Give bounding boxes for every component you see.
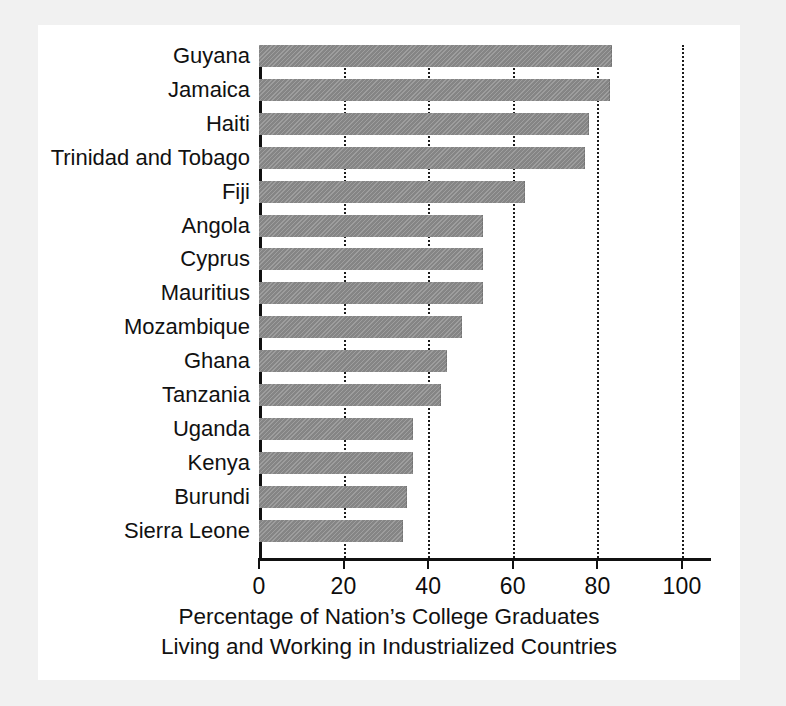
bar-row: Uganda — [259, 418, 682, 452]
bar-sierra-leone — [259, 520, 403, 542]
gridline-100 — [682, 45, 684, 558]
bar-row: Fiji — [259, 181, 682, 215]
bar-angola — [259, 215, 483, 237]
x-tick-label-20: 20 — [331, 573, 357, 600]
bar-burundi — [259, 486, 407, 508]
bar-ghana — [259, 350, 447, 372]
bar-uganda — [259, 418, 413, 440]
plot-area: 020406080100 GuyanaJamaicaHaitiTrinidad … — [259, 45, 682, 565]
bar-tanzania — [259, 384, 441, 406]
category-label-jamaica: Jamaica — [168, 79, 250, 101]
category-label-haiti: Haiti — [206, 113, 250, 135]
category-label-burundi: Burundi — [174, 486, 250, 508]
chart-card: 020406080100 GuyanaJamaicaHaitiTrinidad … — [38, 25, 740, 680]
bar-mauritius — [259, 282, 483, 304]
bar-row: Kenya — [259, 452, 682, 486]
x-tick-80 — [596, 558, 598, 569]
bar-row: Cyprus — [259, 248, 682, 282]
x-axis-title-line-1: Percentage of Nation’s College Graduates — [38, 602, 740, 632]
bar-jamaica — [259, 79, 610, 101]
bar-mozambique — [259, 316, 462, 338]
bar-trinidad-and-tobago — [259, 147, 585, 169]
x-tick-label-100: 100 — [663, 573, 702, 600]
x-axis-title-line-2: Living and Working in Industrialized Cou… — [38, 632, 740, 662]
x-tick-40 — [427, 558, 429, 569]
bar-row: Trinidad and Tobago — [259, 147, 682, 181]
bar-row: Jamaica — [259, 79, 682, 113]
bar-fiji — [259, 181, 525, 203]
bar-guyana — [259, 45, 612, 67]
x-tick-100 — [681, 558, 683, 569]
bar-kenya — [259, 452, 413, 474]
bar-row: Angola — [259, 215, 682, 249]
bar-row: Haiti — [259, 113, 682, 147]
x-tick-label-80: 80 — [584, 573, 610, 600]
category-label-trinidad-and-tobago: Trinidad and Tobago — [51, 147, 250, 169]
bar-row: Sierra Leone — [259, 520, 682, 554]
category-label-mozambique: Mozambique — [124, 316, 250, 338]
bar-haiti — [259, 113, 589, 135]
category-label-kenya: Kenya — [188, 452, 250, 474]
bar-cyprus — [259, 248, 483, 270]
x-axis-line — [259, 558, 711, 561]
x-axis-title: Percentage of Nation’s College Graduates… — [38, 602, 740, 662]
category-label-mauritius: Mauritius — [161, 282, 250, 304]
category-label-sierra-leone: Sierra Leone — [124, 520, 250, 542]
bar-row: Mozambique — [259, 316, 682, 350]
category-label-ghana: Ghana — [184, 350, 250, 372]
bar-row: Mauritius — [259, 282, 682, 316]
category-label-uganda: Uganda — [173, 418, 250, 440]
x-tick-60 — [512, 558, 514, 569]
x-tick-label-60: 60 — [500, 573, 526, 600]
category-label-angola: Angola — [181, 215, 250, 237]
bar-row: Tanzania — [259, 384, 682, 418]
bar-row: Burundi — [259, 486, 682, 520]
x-tick-label-0: 0 — [253, 573, 266, 600]
bar-row: Guyana — [259, 45, 682, 79]
category-label-tanzania: Tanzania — [162, 384, 250, 406]
bar-row: Ghana — [259, 350, 682, 384]
x-tick-0 — [258, 558, 260, 569]
category-label-fiji: Fiji — [222, 181, 250, 203]
category-label-cyprus: Cyprus — [180, 248, 250, 270]
x-tick-20 — [343, 558, 345, 569]
x-tick-label-40: 40 — [415, 573, 441, 600]
category-label-guyana: Guyana — [173, 45, 250, 67]
